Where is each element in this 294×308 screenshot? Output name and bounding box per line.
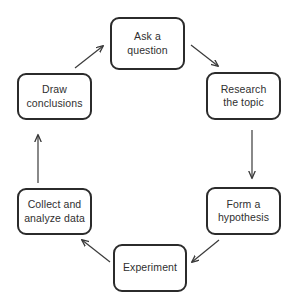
node-research-the-topic[interactable]: Research the topic [206, 72, 281, 120]
diagram-canvas: Ask a question Research the topic Form a… [0, 0, 294, 308]
arrow-experiment-to-collect [82, 240, 110, 262]
arrow-ask-to-research [191, 45, 218, 66]
arrow-draw-to-ask [75, 46, 103, 68]
arrow-form-to-experiment [192, 240, 219, 262]
node-form-a-hypothesis[interactable]: Form a hypothesis [206, 187, 281, 235]
node-draw-conclusions[interactable]: Draw conclusions [17, 73, 92, 120]
node-ask-a-question[interactable]: Ask a question [110, 17, 185, 70]
node-collect-and-analyze-data[interactable]: Collect and analyze data [17, 188, 92, 235]
node-experiment[interactable]: Experiment [113, 244, 187, 292]
